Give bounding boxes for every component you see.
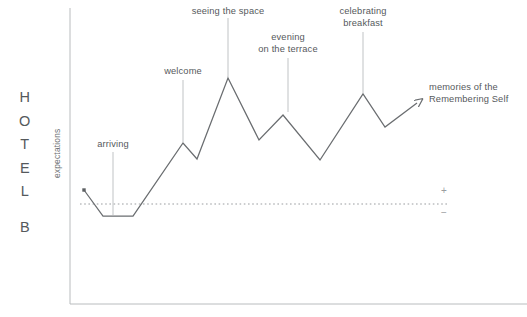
annotation-memories-line-1: memories of the xyxy=(429,82,508,94)
annotation-arriving-label: arriving xyxy=(97,139,129,149)
annotation-seeing-the-space-label: seeing the space xyxy=(192,6,265,16)
positive-sign-marker: + xyxy=(438,186,450,196)
experience-curve-line xyxy=(84,78,417,216)
annotation-arriving: arriving xyxy=(97,139,129,151)
annotation-evening-line-1: evening xyxy=(258,32,317,44)
negative-sign-marker: − xyxy=(438,208,450,218)
annotation-evening-on-the-terrace: evening on the terrace xyxy=(258,32,317,55)
annotation-seeing-the-space: seeing the space xyxy=(192,6,265,18)
annotation-evening-line-2: on the terrace xyxy=(258,44,317,56)
curve-start-marker xyxy=(82,188,85,191)
annotation-memories: memories of the Remembering Self xyxy=(429,82,508,105)
experience-curve-figure: H O T E L B expectations arriving welcom… xyxy=(0,0,527,317)
annotation-welcome-label: welcome xyxy=(164,66,202,76)
annotation-celebrating-breakfast: celebrating breakfast xyxy=(339,6,386,29)
annotation-welcome: welcome xyxy=(164,66,202,78)
annotation-celebrating-line-1: celebrating xyxy=(339,6,386,18)
annotation-memories-line-2: Remembering Self xyxy=(429,94,508,106)
leader-lines-group xyxy=(113,18,363,215)
annotation-celebrating-line-2: breakfast xyxy=(339,18,386,30)
